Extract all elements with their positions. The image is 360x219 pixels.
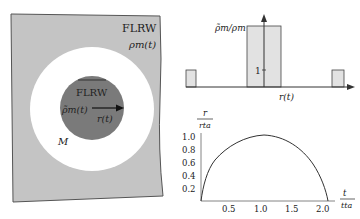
outer-region-label: FLRW	[122, 22, 157, 35]
svg-text:2.0: 2.0	[316, 204, 330, 214]
svg-text:1.0: 1.0	[182, 132, 196, 142]
density-step-plot	[186, 14, 355, 90]
radius-time-plot: r rta 1.0 0.8 0.6 0.4 0.2 0.5 1.0 1.5 2.…	[182, 108, 355, 214]
left-bar	[186, 70, 196, 87]
inner-density-label: ρ̃m(t)	[61, 104, 88, 115]
outer-density-label: ρm(t)	[128, 39, 156, 50]
right-bar	[332, 70, 344, 87]
r-axis-label: r(t)	[279, 92, 294, 102]
cycloid-curve	[201, 135, 328, 201]
x-label-numerator: t	[343, 188, 347, 198]
shell-mass-label: M	[57, 136, 69, 147]
x-label-denominator: tta	[341, 201, 352, 210]
inner-region-label: FLRW	[76, 87, 108, 98]
y-label-denominator: rta	[199, 121, 211, 130]
radius-label: r(t)	[97, 113, 113, 124]
svg-text:1.0: 1.0	[254, 204, 268, 214]
svg-text:0.2: 0.2	[182, 184, 196, 194]
x-tick-labels: 0.5 1.0 1.5 2.0	[222, 204, 330, 214]
svg-text:1.5: 1.5	[285, 204, 299, 214]
y-axis-arrowhead	[261, 14, 267, 22]
tick-label-1: 1	[255, 66, 261, 76]
figure-canvas: FLRW ρm(t) FLRW ρ̃m(t) r(t) M ρ̃m/ρm 1 r…	[0, 0, 360, 219]
svg-text:0.6: 0.6	[182, 158, 196, 168]
svg-text:0.8: 0.8	[182, 145, 196, 155]
x-axis-arrowhead	[347, 84, 355, 90]
density-ratio-label: ρ̃m/ρm	[214, 23, 246, 33]
y-label-numerator: r	[203, 108, 208, 118]
y-tick-labels: 1.0 0.8 0.6 0.4 0.2	[182, 132, 196, 194]
svg-text:0.5: 0.5	[222, 204, 236, 214]
svg-text:0.4: 0.4	[182, 171, 196, 181]
